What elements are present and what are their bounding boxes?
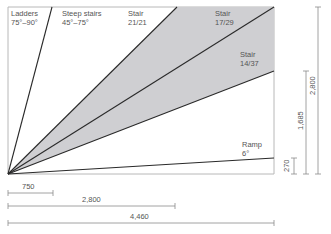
ladders-range: 75°–90° [11, 18, 38, 27]
stair-14-37-ratio: 14/37 [240, 59, 259, 68]
ramp-angle: 6° [242, 149, 249, 158]
steep-stairs-range: 45°–75° [62, 18, 89, 27]
ramp-line [8, 158, 274, 174]
ladders-label: Ladders [11, 9, 38, 18]
stair-21-21-label: Stair [128, 9, 144, 18]
dim-270-label: 270 [282, 159, 291, 172]
stair-17-29-line [8, 7, 274, 174]
stair-21-21-ratio: 21/21 [128, 18, 147, 27]
dim-1685-label: 1,685 [296, 111, 305, 130]
stair-17-29-ratio: 17/29 [215, 18, 234, 27]
dim-2800-v-label: 2,800 [308, 76, 317, 95]
dim-4460-label: 4,460 [130, 212, 149, 221]
stair-14-37-label: Stair [240, 50, 256, 59]
stair-gradient-diagram: Ladders 75°–90° Steep stairs 45°–75° Sta… [0, 0, 331, 234]
ramp-label: Ramp [242, 140, 262, 149]
steep-stairs-label: Steep stairs [62, 9, 102, 18]
dim-750-label: 750 [22, 182, 35, 191]
dim-2800-h-label: 2,800 [82, 195, 101, 204]
dim-270 [291, 158, 297, 174]
stair-17-29-label: Stair [215, 9, 231, 18]
